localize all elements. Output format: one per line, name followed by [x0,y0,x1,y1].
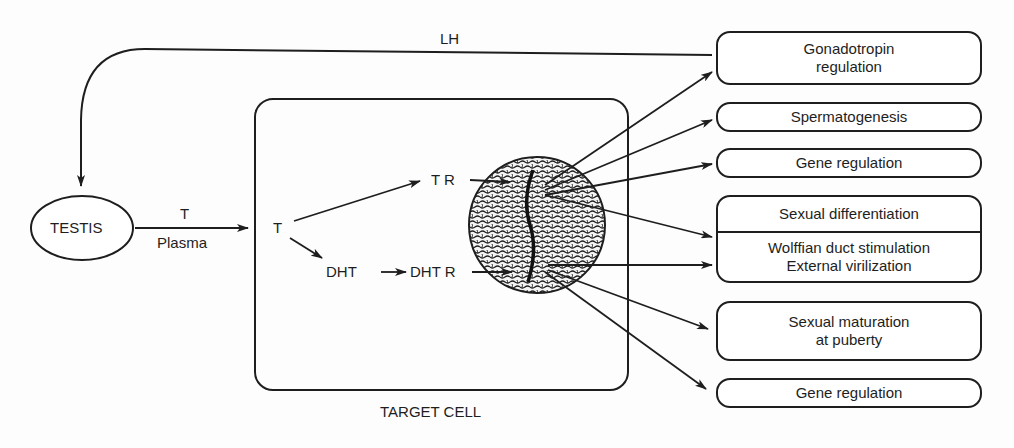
dhtr-label: DHT R [410,263,456,281]
outcome-line: External virilization [786,257,911,275]
outcome-sexual-maturation: Sexual maturation at puberty [716,301,982,361]
outcome-gonadotropin-regulation: Gonadotropin regulation [716,31,982,85]
target-cell-label: TARGET CELL [380,403,481,421]
outcome-line: Gene regulation [796,154,903,172]
lh-feedback-arrow [81,49,712,186]
plasma-hormone-label: T [180,205,189,223]
outcome-line: at puberty [816,331,883,349]
outcome-spermatogenesis: Spermatogenesis [716,102,982,132]
t-to-dht-arrow [290,238,322,258]
outcome-line: Wolffian duct stimulation [768,239,930,257]
outcome-header-text: Sexual differentiation [779,205,919,223]
outcome-header: Sexual differentiation [718,197,980,233]
testis-label: TESTIS [50,219,103,237]
outcome-gene-regulation-1: Gene regulation [716,148,982,178]
lh-label: LH [440,30,459,48]
outcome-line: regulation [816,58,882,76]
outcome-gene-regulation-2: Gene regulation [716,378,982,408]
tr-label: T R [431,171,455,189]
arrow-gene-regulation-2 [545,272,706,389]
t-to-tr-arrow [294,181,420,221]
t-label: T [273,219,282,237]
dht-label: DHT [326,263,357,281]
outcome-sexual-differentiation: Sexual differentiation Wolffian duct sti… [716,195,982,283]
outcome-line: Gonadotropin [804,40,895,58]
outcome-line: Sexual maturation [789,313,910,331]
plasma-label: Plasma [157,234,207,252]
outcome-line: Gene regulation [796,384,903,402]
outcome-line: Spermatogenesis [791,108,908,126]
outcome-body: Wolffian duct stimulation External viril… [718,233,980,281]
